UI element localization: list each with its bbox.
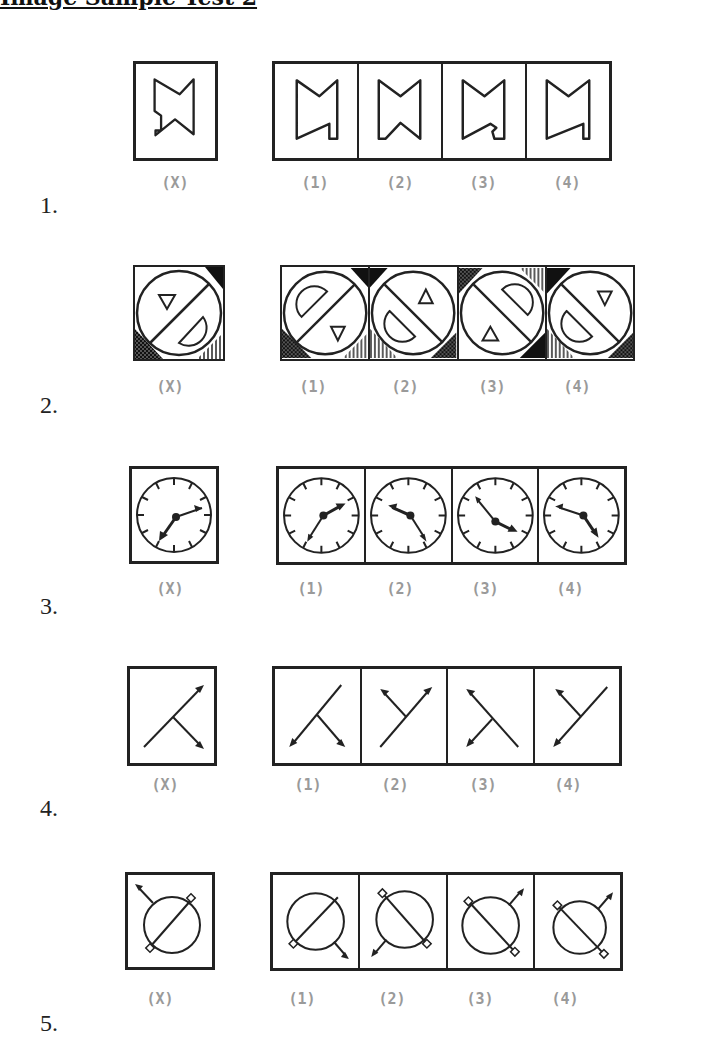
option-2[interactable] [364, 469, 451, 562]
option-label-3: (3) [453, 776, 513, 794]
option-label-2: (2) [362, 990, 422, 1008]
option-4[interactable] [533, 669, 620, 763]
question-number: 4. [40, 795, 58, 822]
circle-diagonal-figure [448, 875, 533, 968]
circle-figure [547, 267, 633, 359]
circle-figure [282, 267, 368, 359]
option-1[interactable] [273, 875, 358, 968]
circle-diagonal-figure [273, 875, 358, 968]
option-label-2: (2) [370, 580, 430, 598]
option-1[interactable] [279, 469, 364, 562]
answer-options [280, 265, 635, 361]
option-label-3: (3) [450, 990, 510, 1008]
option-3[interactable] [457, 267, 545, 359]
figure-label-x: (X) [140, 378, 200, 396]
option-label-1: (1) [281, 580, 341, 598]
option-4[interactable] [545, 267, 633, 359]
arrow-branch-figure [275, 669, 360, 763]
question-figure-x [133, 265, 225, 361]
circle-figure [459, 267, 545, 359]
clock-figure [132, 469, 216, 561]
circle-diagonal-figure [535, 875, 620, 968]
figure-label-x: (X) [140, 580, 200, 598]
option-2[interactable] [358, 875, 445, 968]
option-1[interactable] [282, 267, 368, 359]
option-3[interactable] [446, 875, 533, 968]
question-figure-x [127, 666, 217, 766]
clock-figure [539, 469, 624, 562]
option-3[interactable] [446, 669, 533, 763]
arrow-branch-figure [535, 669, 620, 763]
question-number: 3. [40, 593, 58, 620]
option-label-4: (4) [540, 580, 600, 598]
option-label-3: (3) [455, 580, 515, 598]
clock-figure [453, 469, 538, 562]
answer-options [272, 666, 622, 766]
answer-options [270, 872, 623, 971]
question-figure-x [129, 466, 219, 564]
option-2[interactable] [360, 669, 447, 763]
circle-diagonal-figure [128, 875, 212, 967]
question-figure-x [125, 872, 215, 970]
arrow-branch-figure [362, 669, 447, 763]
circle-figure [370, 267, 456, 359]
option-label-4: (4) [547, 378, 607, 396]
figure-label-x: (X) [135, 776, 195, 794]
option-label-1: (1) [272, 990, 332, 1008]
option-2[interactable] [368, 267, 456, 359]
arrow-branch-figure [448, 669, 533, 763]
clock-figure [279, 469, 364, 562]
option-label-4: (4) [538, 776, 598, 794]
option-1[interactable] [275, 669, 360, 763]
option-label-4: (4) [535, 990, 595, 1008]
option-3[interactable] [451, 469, 538, 562]
circle-diagonal-figure [360, 875, 445, 968]
figure-label-x: (X) [130, 990, 190, 1008]
option-label-1: (1) [278, 776, 338, 794]
option-label-2: (2) [375, 378, 435, 396]
answer-options [276, 466, 627, 565]
clock-figure [366, 469, 451, 562]
option-4[interactable] [533, 875, 620, 968]
question-number: 2. [40, 392, 58, 419]
option-label-2: (2) [365, 776, 425, 794]
option-label-3: (3) [462, 378, 522, 396]
option-4[interactable] [537, 469, 624, 562]
circle-figure [135, 267, 223, 359]
arrow-branch-figure [130, 669, 214, 763]
option-label-1: (1) [283, 378, 343, 396]
question-number: 5. [40, 1010, 58, 1037]
